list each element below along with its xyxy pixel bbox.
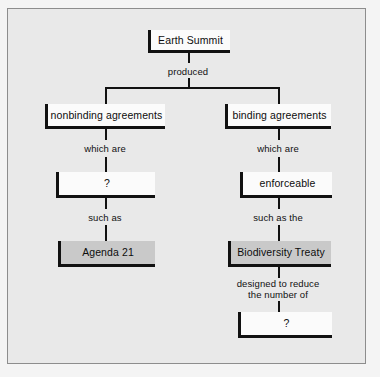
edge-label-designed-to-reduce: designed to reduce the number of [223, 278, 333, 300]
node-bottom-unknown[interactable]: ? [238, 312, 332, 338]
edge-label-produced: produced [148, 66, 228, 77]
edge-label-which-are-right: which are [238, 143, 318, 154]
node-biodiversity-treaty[interactable]: Biodiversity Treaty [228, 241, 331, 267]
node-label: Agenda 21 [82, 247, 134, 258]
node-label: enforceable [260, 178, 316, 189]
diagram-canvas: Earth Summit nonbinding agreements bindi… [0, 0, 380, 377]
connector-biodiversity-to-designed [278, 267, 280, 278]
connector-suchas-to-agenda21 [105, 225, 107, 241]
connector-branch-right-drop [278, 87, 280, 104]
connector-whichare-to-enforceable [278, 157, 280, 172]
connector-suchasthe-to-biodiversity [278, 225, 280, 241]
node-nonbinding-agreements[interactable]: nonbinding agreements [45, 104, 165, 129]
node-binding-agreements[interactable]: binding agreements [225, 104, 331, 129]
node-label: Biodiversity Treaty [237, 247, 325, 258]
node-earth-summit[interactable]: Earth Summit [148, 30, 230, 53]
edge-label-such-as: such as [65, 212, 145, 223]
edge-label-such-as-the: such as the [238, 212, 318, 223]
node-label: nonbinding agreements [51, 110, 163, 121]
connector-binding-to-whichare [278, 129, 280, 140]
node-left-unknown[interactable]: ? [56, 172, 155, 198]
node-label: ? [104, 178, 110, 189]
edge-label-which-are-left: which are [65, 143, 145, 154]
node-label: binding agreements [232, 110, 326, 121]
connector-unknown-to-suchas [105, 198, 107, 209]
node-label: Earth Summit [158, 35, 223, 46]
connector-designed-to-unknown [278, 301, 280, 312]
connector-earthsummit-down [188, 52, 190, 63]
connector-branch-left-drop [105, 87, 107, 104]
connector-whichare-to-unknown [105, 157, 107, 172]
node-agenda-21[interactable]: Agenda 21 [58, 241, 155, 267]
node-enforceable[interactable]: enforceable [240, 172, 332, 198]
connector-nonbinding-to-whichare [105, 129, 107, 140]
node-label: ? [284, 318, 290, 329]
connector-branch-bar [105, 87, 280, 89]
connector-enforceable-to-suchasthe [278, 198, 280, 209]
